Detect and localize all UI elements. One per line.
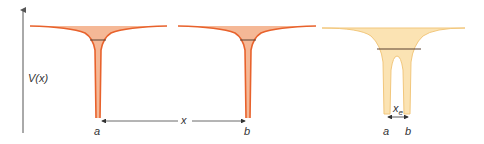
combined-label-a: a — [383, 125, 389, 137]
separation-label: x — [180, 114, 187, 126]
middle-well-label: b — [244, 125, 250, 137]
left-well — [30, 26, 167, 118]
combined-label-b: b — [405, 125, 411, 137]
middle-well — [178, 26, 316, 118]
equilibrium-label: xe — [392, 102, 404, 117]
y-axis-label: V(x) — [28, 72, 49, 84]
left-well-label: a — [94, 125, 100, 137]
potential-well-diagram: V(x) x a b xe a b — [0, 0, 484, 144]
